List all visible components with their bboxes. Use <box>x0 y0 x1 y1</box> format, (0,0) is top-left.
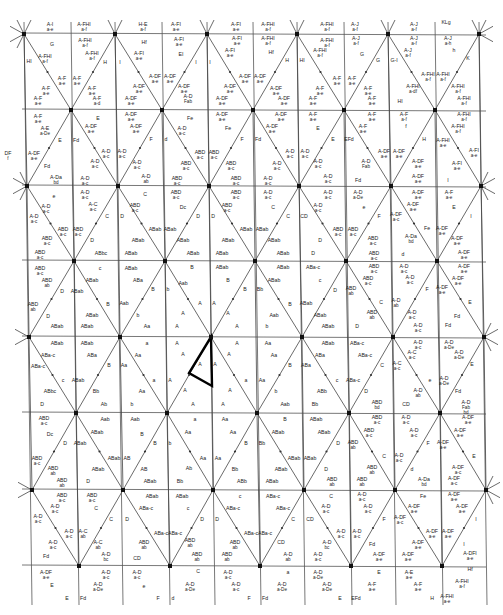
hub-node <box>440 564 444 568</box>
label-primary: G-I <box>390 57 397 63</box>
region-label: A-Da-c <box>51 503 60 514</box>
label-primary: ABab <box>277 250 290 256</box>
region-label: Aab <box>280 401 289 407</box>
label-secondary: a-e <box>43 575 50 580</box>
label-secondary: a-c <box>44 241 51 246</box>
region-label: ABb <box>317 388 327 394</box>
spoke-edge <box>115 34 118 186</box>
region-label: A-DFa-e <box>125 111 137 122</box>
label-primary: d <box>172 595 175 601</box>
minor-vertex <box>412 147 414 149</box>
minor-vertex <box>371 450 373 452</box>
region-label: D <box>86 478 90 484</box>
label-primary: ABa-c <box>154 530 169 536</box>
region-label: Fd <box>454 313 460 319</box>
region-label: ABDa-c <box>130 202 141 213</box>
region-label: D <box>40 401 44 407</box>
label-primary: C <box>196 568 200 574</box>
region-label: A-DFa-e <box>436 284 448 295</box>
hub-node <box>168 564 172 568</box>
region-label: ABa-c <box>346 377 361 383</box>
region-label: A-Fa-f <box>400 111 408 122</box>
label-secondary: a-e <box>233 27 240 32</box>
label-secondary: a-f <box>140 27 146 32</box>
label-primary: ABab <box>272 429 285 435</box>
region-label: e <box>363 204 366 210</box>
minor-vertex <box>141 298 143 300</box>
region-label: ABDab <box>346 285 357 296</box>
region-label: Aa <box>271 352 277 358</box>
region-label: A-DFa-e <box>454 427 466 438</box>
label-primary: B <box>106 301 110 307</box>
region-label: c <box>336 377 339 383</box>
label-primary: e <box>53 193 56 199</box>
region-label: b <box>275 388 278 394</box>
label-primary: ABab <box>74 440 87 446</box>
label-primary: Aa <box>139 388 145 394</box>
label-secondary: a-c <box>41 421 48 426</box>
region-label: A-FHIa-e <box>440 593 454 604</box>
region-label: A-Ja-h <box>444 35 452 46</box>
region-label: c <box>99 265 102 271</box>
region-label: A-DFa-c <box>448 475 460 486</box>
region-label: ABDab <box>48 465 59 476</box>
label-secondary: a-f <box>352 27 358 32</box>
label-primary: ABab <box>256 226 269 232</box>
label-secondary: a-e <box>415 179 422 184</box>
region-label: A-Da-c <box>402 414 411 425</box>
region-label: A-DFa-e <box>407 201 419 212</box>
minor-vertex <box>372 527 374 529</box>
hub-node <box>438 411 442 415</box>
label-primary: G <box>50 41 54 47</box>
label-secondary: a-c <box>407 280 414 285</box>
label-secondary: a-c <box>43 209 50 214</box>
label-secondary: ab <box>143 179 149 184</box>
region-label: Aa <box>185 429 191 435</box>
region-label: I <box>463 541 464 547</box>
region-label: A-Ia-e <box>47 21 54 32</box>
region-label: F <box>382 516 385 522</box>
label-primary: ABab <box>314 312 327 318</box>
label-primary: HI <box>397 98 402 104</box>
label-primary: I <box>209 59 210 65</box>
minor-vertex <box>231 222 233 224</box>
region-label: ABDab <box>367 309 378 320</box>
label-secondary: ab <box>224 557 230 562</box>
label-secondary: a-f <box>81 27 87 32</box>
region-label: Aa <box>215 455 221 461</box>
region-label: H <box>422 136 426 142</box>
label-secondary: a-f <box>411 27 417 32</box>
region-label: ABab <box>275 466 288 472</box>
label-secondary: ab <box>44 283 50 288</box>
region-label: Fe <box>187 115 193 121</box>
label-primary: ABab <box>310 416 323 422</box>
region-label: I <box>470 213 471 219</box>
region-label: ABDa-c <box>369 263 380 274</box>
label-primary: E <box>452 204 456 210</box>
label-primary: C <box>271 204 275 210</box>
label-secondary: a-e <box>454 166 461 171</box>
label-primary: F <box>382 516 385 522</box>
region-label: Fe <box>420 493 426 499</box>
region-label: A-Da-c <box>301 148 310 159</box>
region-label: Hf <box>268 49 274 55</box>
label-primary: CD <box>277 539 285 545</box>
label-secondary: a-c <box>371 269 378 274</box>
label-primary: D <box>60 288 64 294</box>
boundary-stub <box>479 34 493 42</box>
label-primary: Bb <box>257 286 263 292</box>
region-label: A-Ea-e <box>405 569 414 580</box>
minor-vertex <box>234 450 236 452</box>
label-secondary: a-e <box>47 27 54 32</box>
region-label: A-DFa-e <box>239 73 251 84</box>
region-label: ABa-c <box>358 352 373 358</box>
region-label: ABab <box>268 237 281 243</box>
hub-node <box>72 259 76 263</box>
label-primary: I <box>463 541 464 547</box>
minor-vertex <box>95 222 97 224</box>
region-label: B <box>283 416 287 422</box>
label-primary: ABbc <box>44 388 57 394</box>
region-label: A-DFa-e <box>458 263 470 274</box>
label-secondary: a-f <box>353 41 359 46</box>
label-primary: Bb <box>177 478 183 484</box>
